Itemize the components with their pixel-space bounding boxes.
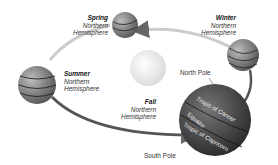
winter-label: WinterNorthernHemisphere bbox=[198, 14, 236, 37]
summer-earth-globe bbox=[18, 66, 56, 104]
north-pole-label: North Pole bbox=[180, 69, 211, 76]
spring-label: SpringNorthernHemisphere bbox=[70, 14, 108, 37]
south-pole-label: South Pole bbox=[144, 152, 176, 159]
spring-earth-globe bbox=[112, 12, 138, 38]
winter-earth-globe bbox=[227, 39, 259, 71]
fall-label: FallNorthernHemisphere bbox=[120, 98, 156, 121]
fall-earth-globe: Tropic of Cancer Equator Tropic of Capri… bbox=[179, 78, 251, 156]
summer-label: SummerNorthernHemisphere bbox=[64, 70, 99, 93]
orbit-diagram: Tropic of Cancer Equator Tropic of Capri… bbox=[0, 0, 278, 165]
sun bbox=[130, 50, 166, 86]
